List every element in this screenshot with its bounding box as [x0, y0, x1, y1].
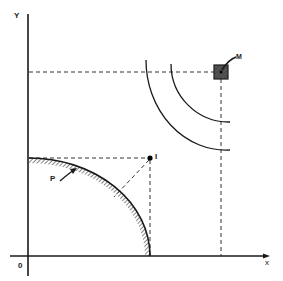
- p-pointer-arrowhead-icon: [70, 168, 77, 174]
- m-pointer-line: [222, 57, 236, 70]
- origin-label: 0: [18, 262, 22, 270]
- surface-p-hatching: [29, 158, 150, 256]
- point-i-label: I: [155, 153, 157, 161]
- source-m-center-dot: [220, 71, 223, 74]
- diagram-canvas: [0, 0, 283, 281]
- source-m-label: M: [236, 53, 242, 60]
- y-axis-label: Y: [14, 12, 19, 20]
- x-axis-label: x: [265, 259, 269, 267]
- point-i-dot: [147, 155, 152, 160]
- surface-p-label: P: [50, 175, 55, 183]
